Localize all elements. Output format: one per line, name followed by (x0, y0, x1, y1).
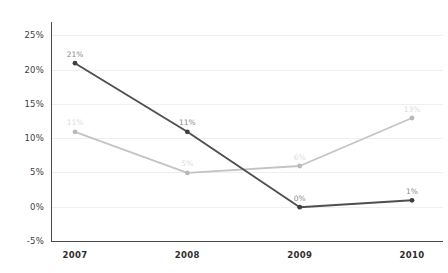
data-point-label: 6% (294, 153, 306, 162)
y-tick-label: 20% (25, 65, 45, 75)
data-point-marker (297, 164, 302, 169)
data-point-label: 21% (67, 50, 84, 59)
x-tick-label: 2010 (400, 250, 425, 260)
chart-canvas: 25%20%15%10%5%0%-5% 11%5%6%13% 21%11%0%1… (0, 0, 448, 273)
series-line (75, 63, 412, 207)
gridlines (52, 36, 444, 208)
series-dark-group: 21%11%0%1% (67, 50, 418, 210)
y-tick-label: -5% (27, 236, 44, 246)
data-point-marker (410, 116, 415, 121)
y-tick-label: 10% (25, 133, 45, 143)
data-point-marker (73, 129, 78, 134)
x-tick-label: 2008 (175, 250, 200, 260)
y-tick-label: 25% (25, 30, 45, 40)
data-point-marker (73, 61, 78, 66)
data-point-marker (185, 129, 190, 134)
line-chart: 25%20%15%10%5%0%-5% 11%5%6%13% 21%11%0%1… (0, 0, 448, 273)
y-tick-label: 15% (25, 99, 45, 109)
data-point-marker (185, 171, 190, 176)
series-light-group: 11%5%6%13% (67, 105, 421, 176)
data-point-label: 5% (181, 159, 193, 168)
data-point-label: 13% (404, 105, 421, 114)
data-point-label: 11% (67, 118, 84, 127)
data-point-marker (297, 205, 302, 210)
data-point-label: 1% (406, 187, 418, 196)
data-point-label: 0% (294, 194, 306, 203)
data-point-marker (410, 198, 415, 203)
x-axis-tick-labels: 2007200820092010 (63, 250, 425, 260)
x-tick-label: 2009 (287, 250, 312, 260)
y-axis-tick-labels: 25%20%15%10%5%0%-5% (25, 30, 45, 246)
series-line (75, 118, 412, 173)
y-tick-label: 0% (30, 202, 44, 212)
data-point-label: 11% (179, 118, 196, 127)
x-tick-label: 2007 (63, 250, 88, 260)
y-tick-label: 5% (30, 167, 44, 177)
